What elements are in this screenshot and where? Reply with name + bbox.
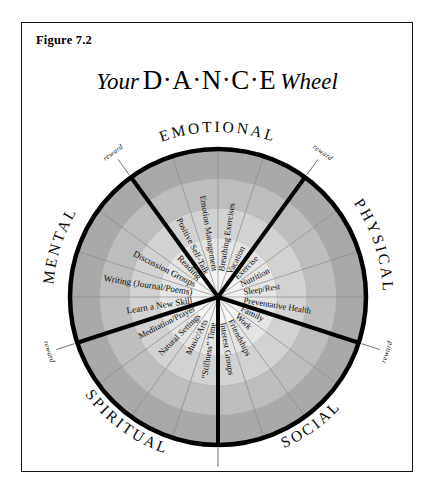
- reward-tick: [118, 159, 129, 174]
- reward-label: reward: [380, 340, 395, 364]
- title-suffix: Wheel: [280, 69, 337, 94]
- reward-label: reward: [42, 340, 57, 364]
- title-prefix: Your: [96, 69, 139, 94]
- reward-label: reward: [102, 143, 125, 163]
- dance-wheel-diagram: Positive Self-TalkEmotion ManagementBrea…: [22, 101, 414, 467]
- wheel-svg: Positive Self-TalkEmotion ManagementBrea…: [22, 101, 414, 467]
- reward-tick: [56, 344, 74, 350]
- figure-frame: Figure 7.2 Your D·A·N·C·E Wheel Positive…: [21, 22, 413, 472]
- reward-tick: [307, 159, 318, 174]
- title-acronym: D·A·N·C·E: [143, 65, 276, 95]
- wheel-sector-label-emotional: EMOTIONAL: [157, 118, 279, 145]
- reward-label: reward: [311, 143, 334, 163]
- figure-number-label: Figure 7.2: [36, 33, 92, 48]
- reward-tick: [362, 344, 380, 350]
- page-title: Your D·A·N·C·E Wheel: [22, 65, 412, 96]
